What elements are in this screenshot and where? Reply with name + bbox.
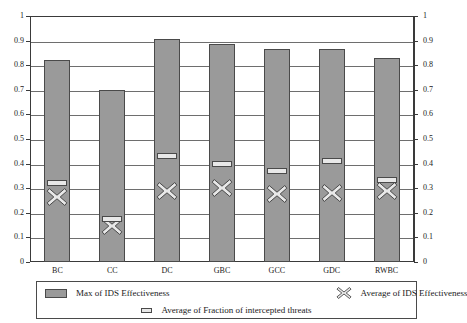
bar-max-ids-effectiveness[interactable]	[374, 58, 400, 262]
legend-label: Average of IDS Effectiveness	[361, 288, 467, 298]
bar-group[interactable]	[44, 16, 70, 262]
bar-group[interactable]	[319, 16, 345, 262]
bar-group[interactable]	[264, 16, 290, 262]
chart-legend: Max of IDS Effectiveness Average of IDS …	[36, 281, 417, 319]
y-tick-label-left: 0.5	[4, 135, 24, 143]
bar-max-ids-effectiveness[interactable]	[99, 90, 125, 262]
dash-marker-icon	[141, 308, 152, 313]
y-tick-label-right: 0.4	[423, 160, 433, 168]
bar-group[interactable]	[374, 16, 400, 262]
y-tick-label-right: 0.7	[423, 86, 433, 94]
dash-marker-average-fraction-intercepted-threats	[267, 168, 287, 174]
bar-swatch-icon	[45, 289, 67, 298]
x-axis-label-dc: DC	[137, 266, 197, 275]
y-tick-label-right: 0.5	[423, 135, 433, 143]
y-tick-label-right: 0.3	[423, 184, 433, 192]
x-marker-average-ids-effectiveness	[321, 183, 343, 203]
right-axis-spine	[414, 16, 415, 262]
y-tick-label-left: 0.3	[4, 184, 24, 192]
dash-marker-average-fraction-intercepted-threats	[377, 177, 397, 183]
y-tick-label-right: 0.6	[423, 110, 433, 118]
x-axis-label-gbc: GBC	[192, 266, 252, 275]
y-tick-label-right: 0.2	[423, 209, 433, 217]
x-axis-label-rwbc: RWBC	[357, 266, 417, 275]
y-tick-mark-right	[414, 262, 418, 263]
dash-marker-average-fraction-intercepted-threats	[157, 153, 177, 159]
x-axis-label-bc: BC	[27, 266, 87, 275]
legend-item-average-fraction-intercepted-threats: Average of Fraction of intercepted threa…	[141, 305, 311, 315]
x-marker-average-ids-effectiveness	[46, 187, 68, 207]
y-tick-label-left: 0.6	[4, 110, 24, 118]
bar-group[interactable]	[154, 16, 180, 262]
y-tick-label-left: 0.9	[4, 37, 24, 45]
y-tick-label-left: 0.7	[4, 86, 24, 94]
y-tick-label-right: 1	[423, 12, 427, 20]
y-tick-label-left: 0.8	[4, 61, 24, 69]
legend-label: Average of Fraction of intercepted threa…	[161, 305, 311, 315]
x-marker-average-ids-effectiveness	[266, 184, 288, 204]
y-tick-label-left: 0.1	[4, 233, 24, 241]
x-marker-average-ids-effectiveness	[376, 181, 398, 201]
dash-marker-average-fraction-intercepted-threats	[102, 216, 122, 222]
dash-marker-average-fraction-intercepted-threats	[47, 180, 67, 186]
x-marker-average-ids-effectiveness	[211, 178, 233, 198]
legend-item-average-ids-effectiveness: Average of IDS Effectiveness	[336, 286, 467, 300]
bar-group[interactable]	[209, 16, 235, 262]
y-tick-label-left: 1	[4, 12, 24, 20]
legend-row-bottom: Average of Fraction of intercepted threa…	[37, 302, 416, 318]
bar-max-ids-effectiveness[interactable]	[319, 49, 345, 262]
dash-marker-average-fraction-intercepted-threats	[212, 161, 232, 167]
x-marker-icon	[336, 286, 352, 300]
bar-max-ids-effectiveness[interactable]	[264, 49, 290, 262]
dash-marker-average-fraction-intercepted-threats	[322, 158, 342, 164]
bar-max-ids-effectiveness[interactable]	[209, 44, 235, 262]
y-tick-label-right: 0.9	[423, 37, 433, 45]
y-tick-label-left: 0.2	[4, 209, 24, 217]
y-tick-label-right: 0.8	[423, 61, 433, 69]
y-tick-label-left: 0	[4, 258, 24, 266]
y-tick-label-right: 0.1	[423, 233, 433, 241]
y-tick-label-left: 0.4	[4, 160, 24, 168]
y-tick-label-right: 0	[423, 258, 427, 266]
legend-item-max-ids-effectiveness: Max of IDS Effectiveness	[45, 288, 170, 298]
y-tick-mark-left	[26, 262, 30, 263]
bar-group[interactable]	[99, 16, 125, 262]
bar-max-ids-effectiveness[interactable]	[154, 39, 180, 262]
x-axis-label-gdc: GDC	[302, 266, 362, 275]
legend-label: Max of IDS Effectiveness	[76, 288, 170, 298]
x-axis-label-cc: CC	[82, 266, 142, 275]
bar-max-ids-effectiveness[interactable]	[44, 60, 70, 262]
legend-row-top: Max of IDS Effectiveness Average of IDS …	[37, 285, 416, 301]
bars-layer	[30, 16, 414, 262]
x-marker-average-ids-effectiveness	[156, 181, 178, 201]
x-axis-label-gcc: GCC	[247, 266, 307, 275]
